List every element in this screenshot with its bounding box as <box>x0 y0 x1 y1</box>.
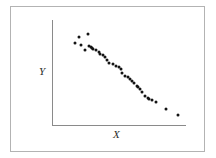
data-point <box>154 100 157 103</box>
data-point <box>108 62 111 65</box>
data-point <box>73 42 76 45</box>
scatter-plot-figure: Y X <box>0 0 216 158</box>
x-axis-label: X <box>113 129 120 140</box>
data-point <box>177 113 180 116</box>
data-point <box>150 98 153 101</box>
y-axis-label: Y <box>39 66 45 77</box>
x-axis-line <box>52 125 186 126</box>
data-point <box>80 44 83 47</box>
data-point <box>86 32 89 35</box>
plot-area <box>52 20 185 125</box>
data-point <box>165 108 168 111</box>
data-point <box>84 49 87 52</box>
data-point <box>77 35 80 38</box>
